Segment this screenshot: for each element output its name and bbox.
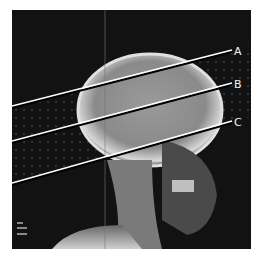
xray-image: A B C xyxy=(12,10,251,249)
label-a: A xyxy=(234,46,242,57)
xray-graphic xyxy=(12,10,251,249)
label-b: B xyxy=(234,79,242,90)
film-marker xyxy=(17,222,27,235)
label-c: C xyxy=(234,117,242,128)
